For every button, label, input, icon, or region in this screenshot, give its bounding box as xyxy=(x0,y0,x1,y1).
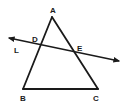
segment-ac xyxy=(52,17,98,89)
segment-ab xyxy=(23,17,52,89)
point-label-e: E xyxy=(77,44,83,53)
vertex-label-a: A xyxy=(50,6,56,15)
triangle-diagram: A B C D E L xyxy=(0,0,125,106)
vertex-label-c: C xyxy=(93,94,99,103)
vertex-label-b: B xyxy=(20,94,26,103)
line-label-l: L xyxy=(14,46,19,55)
line-l xyxy=(9,38,119,61)
point-label-d: D xyxy=(32,35,38,44)
